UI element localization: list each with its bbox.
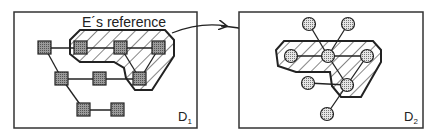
node-square (93, 72, 106, 85)
node-circle (341, 79, 354, 92)
node-square (38, 41, 51, 54)
node-circle (361, 50, 374, 63)
node-circle (303, 18, 316, 31)
node-square (74, 41, 87, 54)
diagram-canvas: E´s reference D1 (0, 0, 436, 136)
left-panel-d1: E´s reference D1 (14, 12, 197, 128)
reference-label: E´s reference (82, 14, 166, 30)
node-circle (302, 77, 315, 90)
node-square (55, 72, 68, 85)
right-panel-d2: D2 (239, 12, 423, 128)
node-square (133, 72, 146, 85)
node-square (114, 41, 127, 54)
node-circle (342, 18, 355, 31)
node-square (111, 103, 124, 116)
node-circle (285, 50, 298, 63)
node-square (152, 41, 165, 54)
node-circle (322, 50, 335, 63)
node-circle (321, 108, 334, 121)
node-square (77, 103, 90, 116)
